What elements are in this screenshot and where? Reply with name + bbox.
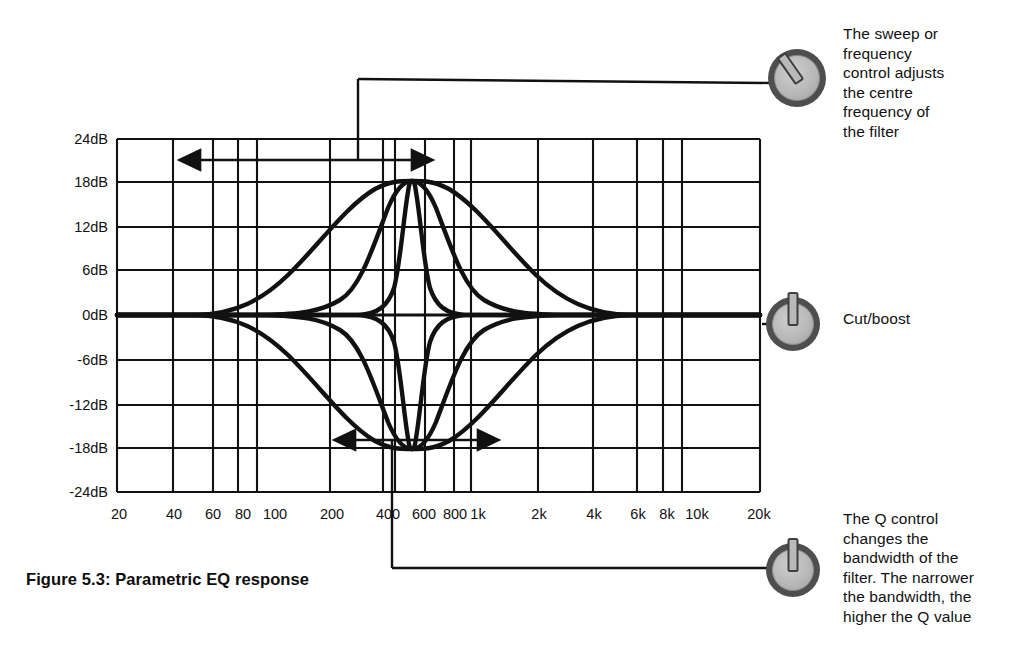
cut-boost-knob[interactable] xyxy=(766,293,820,351)
y-tick-m6db: -6dB xyxy=(77,352,108,368)
x-tick-60: 60 xyxy=(205,506,221,522)
y-tick-0db: 0dB xyxy=(82,307,108,323)
figure-caption: Figure 5.3: Parametric EQ response xyxy=(26,570,309,589)
sweep-frequency-leader-line xyxy=(358,79,770,161)
x-tick-20k: 20k xyxy=(747,506,771,522)
y-tick-18db: 18dB xyxy=(74,174,108,190)
x-axis-tick-labels: 20 40 60 80 100 200 400 600 800 1k 2k 4k… xyxy=(111,506,772,522)
x-tick-600: 600 xyxy=(412,506,436,522)
y-tick-m18db: -18dB xyxy=(69,440,108,456)
sweep-frequency-knob[interactable] xyxy=(768,49,826,107)
x-tick-40: 40 xyxy=(166,506,182,522)
x-tick-800: 800 xyxy=(443,506,467,522)
y-axis-tick-labels: 24dB 18dB 12dB 6dB 0dB -6dB -12dB -18dB … xyxy=(69,131,108,500)
x-tick-20: 20 xyxy=(111,506,127,522)
figure-parametric-eq-response: 24dB 18dB 12dB 6dB 0dB -6dB -12dB -18dB … xyxy=(0,0,1019,654)
y-tick-m24db: -24dB xyxy=(69,484,108,500)
x-tick-200: 200 xyxy=(320,506,344,522)
x-tick-8k: 8k xyxy=(659,506,675,522)
q-control-annotation-text: The Q control changes the bandwidth of t… xyxy=(843,509,1019,627)
x-tick-400: 400 xyxy=(376,506,400,522)
x-tick-2k: 2k xyxy=(531,506,547,522)
x-tick-100: 100 xyxy=(263,506,287,522)
y-tick-12db: 12dB xyxy=(74,219,108,235)
x-tick-10k: 10k xyxy=(685,506,709,522)
q-knob[interactable] xyxy=(766,539,820,597)
y-tick-6db: 6dB xyxy=(82,262,108,278)
y-tick-24db: 24dB xyxy=(74,131,108,147)
q-control-leader-line xyxy=(392,441,768,568)
x-tick-6k: 6k xyxy=(630,506,646,522)
x-tick-80: 80 xyxy=(235,506,251,522)
y-tick-m12db: -12dB xyxy=(69,397,108,413)
cut-boost-annotation-text: Cut/boost xyxy=(843,309,1015,329)
x-tick-4k: 4k xyxy=(586,506,602,522)
x-tick-1k: 1k xyxy=(470,506,486,522)
sweep-frequency-annotation-text: The sweep or frequency control adjusts t… xyxy=(843,24,1015,142)
